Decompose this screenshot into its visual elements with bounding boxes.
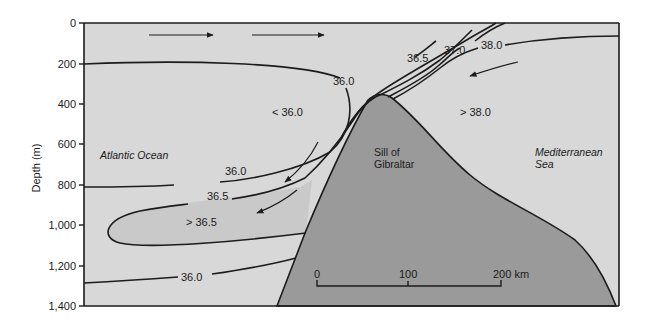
tick-200: 200 <box>58 58 76 70</box>
tick-1000: 1,000 <box>48 219 76 231</box>
contour-label-36-0-mid: 36.0 <box>225 165 246 177</box>
tick-1200: 1,200 <box>48 260 76 272</box>
contour-label-38-0: 38.0 <box>481 39 502 51</box>
mediterranean-label-line2: Sea <box>535 158 554 170</box>
tick-800: 800 <box>58 179 76 191</box>
salinity-label-greater-36-5: > 36.5 <box>186 216 217 228</box>
sill-label-line2: Gibraltar <box>374 158 415 170</box>
sill-label-line1: Sill of <box>374 146 400 158</box>
scale-label-100: 100 <box>399 268 417 280</box>
contour-label-36-0-deep: 36.0 <box>181 271 202 283</box>
y-axis-tick-labels: 0 200 400 600 800 1,000 1,200 1,400 <box>48 17 76 312</box>
contour-label-37-0: 37.0 <box>444 44 465 56</box>
contour-label-36-0-upper: 36.0 <box>333 75 354 87</box>
strait-of-gibraltar-salinity-section: 0 200 400 600 800 1,000 1,200 1,400 Dept… <box>0 0 646 320</box>
salinity-label-greater-38: > 38.0 <box>460 106 491 118</box>
scale-label-0: 0 <box>314 268 320 280</box>
mediterranean-label-line1: Mediterranean <box>535 146 603 158</box>
contour-label-36-5-upper: 36.5 <box>407 52 428 64</box>
tick-0: 0 <box>70 17 76 29</box>
tick-400: 400 <box>58 98 76 110</box>
y-axis-title: Depth (m) <box>30 144 42 193</box>
atlantic-ocean-label: Atlantic Ocean <box>99 149 168 161</box>
salinity-label-less-36: < 36.0 <box>272 106 303 118</box>
scale-label-200km: 200 km <box>493 268 529 280</box>
tick-1400: 1,400 <box>48 300 76 312</box>
contour-label-36-5-lower: 36.5 <box>207 190 228 202</box>
tick-600: 600 <box>58 138 76 150</box>
